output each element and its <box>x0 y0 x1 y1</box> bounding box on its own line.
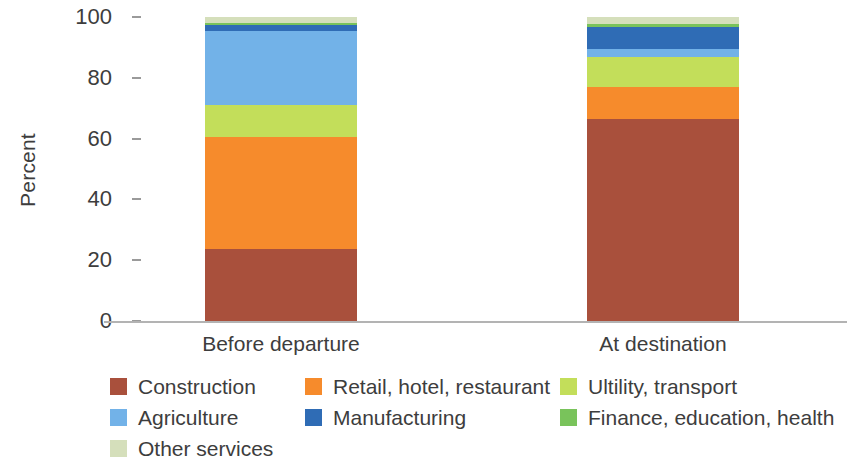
y-axis-tick-label: 60 <box>48 128 112 150</box>
bar-segment <box>205 249 357 321</box>
legend-item[interactable]: Finance, education, health <box>560 403 834 431</box>
legend-item-label: Ultility, transport <box>588 376 737 397</box>
legend-swatch-icon <box>110 378 127 395</box>
legend-item[interactable]: Retail, hotel, restaurant <box>305 372 550 400</box>
legend-item[interactable]: Ultility, transport <box>560 372 737 400</box>
y-axis-tick-mark <box>132 259 141 261</box>
bar-segment <box>205 105 357 137</box>
y-axis-tick-mark <box>132 77 141 79</box>
legend-item-label: Construction <box>138 376 256 397</box>
y-axis-tick-mark <box>132 198 141 200</box>
legend-item[interactable]: Agriculture <box>110 403 238 431</box>
legend-item-label: Finance, education, health <box>588 407 834 428</box>
y-axis: 020406080100 <box>32 0 112 330</box>
bar-segment <box>587 87 739 119</box>
bar-segment <box>587 57 739 87</box>
x-axis-tick-label: Before departure <box>145 332 417 356</box>
y-axis-tick-mark <box>132 16 141 18</box>
x-axis-tick-label: At destination <box>527 332 799 356</box>
legend-row: AgricultureManufacturingFinance, educati… <box>110 403 847 431</box>
bar-segment <box>587 27 739 48</box>
y-axis-tick-mark <box>132 138 141 140</box>
legend: ConstructionRetail, hotel, restaurantUlt… <box>110 372 847 458</box>
y-axis-tick-label: 0 <box>48 310 112 332</box>
bar-segment <box>587 49 739 57</box>
legend-row: ConstructionRetail, hotel, restaurantUlt… <box>110 372 847 400</box>
legend-swatch-icon <box>110 440 127 457</box>
bar-segment <box>587 17 739 24</box>
legend-swatch-icon <box>305 378 322 395</box>
bar-segment <box>587 119 739 321</box>
bar-segment <box>205 31 357 105</box>
legend-item[interactable]: Construction <box>110 372 256 400</box>
bar-2 <box>587 17 739 321</box>
legend-item-label: Other services <box>138 438 273 458</box>
legend-item[interactable]: Manufacturing <box>305 403 466 431</box>
legend-swatch-icon <box>560 409 577 426</box>
legend-swatch-icon <box>110 409 127 426</box>
legend-row: Other services <box>110 434 847 458</box>
bar-1 <box>205 17 357 321</box>
x-axis-line <box>104 321 847 323</box>
legend-item-label: Agriculture <box>138 407 238 428</box>
y-axis-tick-label: 20 <box>48 249 112 271</box>
stacked-bar-chart: Percent 020406080100 Before departureAt … <box>0 0 847 458</box>
bar-segment <box>205 137 357 249</box>
legend-item-label: Manufacturing <box>333 407 466 428</box>
legend-swatch-icon <box>305 409 322 426</box>
y-axis-tick-label: 80 <box>48 67 112 89</box>
y-axis-tick-label: 40 <box>48 188 112 210</box>
legend-swatch-icon <box>560 378 577 395</box>
legend-item[interactable]: Other services <box>110 434 273 458</box>
plot-area: Percent 020406080100 Before departureAt … <box>0 0 847 330</box>
legend-item-label: Retail, hotel, restaurant <box>333 376 550 397</box>
y-axis-tick-label: 100 <box>48 6 112 28</box>
